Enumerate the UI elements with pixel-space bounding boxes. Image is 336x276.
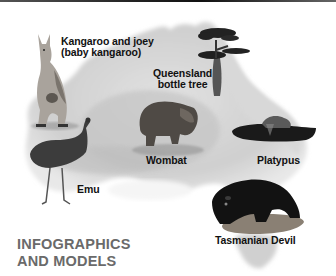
label-bottle-tree-line2: bottle tree [153, 79, 212, 90]
title-line2: AND MODELS [17, 253, 131, 270]
label-tasmanian-devil: Tasmanian Devil [215, 235, 296, 246]
label-bottle-tree: Queensland bottle tree [153, 68, 212, 90]
label-kangaroo-line2: (baby kangaroo) [61, 47, 154, 58]
label-kangaroo: Kangaroo and joey (baby kangaroo) [61, 36, 154, 58]
label-wombat: Wombat [146, 155, 187, 166]
label-emu: Emu [77, 184, 99, 195]
page-title: INFOGRAPHICS AND MODELS [17, 236, 131, 270]
tasmanian-devil-illustration [212, 180, 304, 234]
label-platypus: Platypus [257, 155, 300, 166]
title-line1: INFOGRAPHICS [17, 236, 131, 253]
